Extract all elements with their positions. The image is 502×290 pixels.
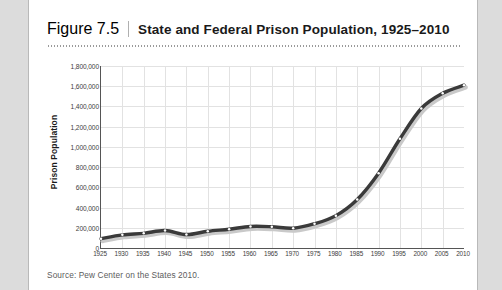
data-point-marker bbox=[335, 214, 338, 217]
x-axis-tick-label: 2005 bbox=[435, 250, 449, 257]
y-axis-tick-label: 1,600,000 bbox=[43, 83, 99, 90]
y-axis-tick-label: 0 bbox=[43, 245, 99, 252]
y-axis-tick-label: 1,400,000 bbox=[43, 103, 99, 110]
y-axis-tick-label: 600,000 bbox=[43, 184, 99, 191]
x-axis-tick-label: 1925 bbox=[93, 250, 107, 257]
series-line-path bbox=[101, 85, 464, 238]
x-axis-tick-label: 2010 bbox=[456, 250, 470, 257]
x-axis-tick-label: 1960 bbox=[243, 250, 257, 257]
y-axis-tick-label: 800,000 bbox=[43, 164, 99, 171]
y-axis-tick-label: 400,000 bbox=[43, 204, 99, 211]
title-separator bbox=[128, 21, 129, 37]
x-axis-tick-label: 1970 bbox=[285, 250, 299, 257]
data-point-marker bbox=[463, 84, 466, 87]
figure-number: Figure 7.5 bbox=[47, 20, 119, 38]
data-point-marker bbox=[185, 233, 188, 236]
data-point-marker bbox=[441, 92, 444, 95]
y-axis-tick-label: 1,800,000 bbox=[43, 63, 99, 70]
figure-header: Figure 7.5 State and Federal Prison Popu… bbox=[47, 14, 461, 44]
figure-title: State and Federal Prison Population, 192… bbox=[138, 22, 449, 37]
figure-card: Figure 7.5 State and Federal Prison Popu… bbox=[28, 0, 478, 290]
data-point-marker bbox=[121, 234, 124, 237]
x-axis-tick-label: 2000 bbox=[413, 250, 427, 257]
x-axis-tick-label: 1935 bbox=[136, 250, 150, 257]
series-line bbox=[101, 66, 464, 248]
x-axis-tick-label: 1975 bbox=[307, 250, 321, 257]
data-point-marker bbox=[164, 229, 167, 232]
data-point-marker bbox=[271, 226, 274, 229]
x-axis-tick-label: 1995 bbox=[392, 250, 406, 257]
source-note: Source: Pew Center on the States 2010. bbox=[47, 270, 199, 280]
x-axis-tick-label: 1930 bbox=[115, 250, 129, 257]
x-axis-tick-label: 1990 bbox=[371, 250, 385, 257]
y-axis-tick-label: 200,000 bbox=[43, 224, 99, 231]
x-axis-tick-label: 1950 bbox=[200, 250, 214, 257]
header-divider bbox=[47, 45, 461, 47]
plot-area bbox=[100, 66, 464, 249]
data-point-marker bbox=[292, 227, 295, 230]
data-point-marker bbox=[249, 225, 252, 228]
x-axis-tick-labels: 1925193019351940194519501955196019651970… bbox=[100, 250, 463, 264]
data-point-marker bbox=[142, 232, 145, 235]
x-axis-tick-label: 1945 bbox=[179, 250, 193, 257]
data-point-marker bbox=[377, 172, 380, 175]
y-axis-tick-label: 1,000,000 bbox=[43, 143, 99, 150]
x-axis-tick-label: 1940 bbox=[157, 250, 171, 257]
x-axis-tick-label: 1980 bbox=[328, 250, 342, 257]
series-line-shadow bbox=[103, 87, 466, 240]
data-point-marker bbox=[399, 138, 402, 141]
x-axis-tick-label: 1955 bbox=[221, 250, 235, 257]
data-point-marker bbox=[100, 237, 103, 240]
data-point-marker bbox=[228, 228, 231, 231]
y-axis-tick-labels: 1,800,0001,600,0001,400,0001,200,0001,00… bbox=[43, 52, 99, 264]
x-axis-tick-label: 1985 bbox=[349, 250, 363, 257]
x-axis-tick-label: 1965 bbox=[264, 250, 278, 257]
data-point-marker bbox=[356, 198, 359, 201]
data-point-marker bbox=[207, 230, 210, 233]
data-point-marker bbox=[313, 222, 316, 225]
data-point-marker bbox=[420, 107, 423, 110]
chart-region: Prison Population 1,800,0001,600,0001,40… bbox=[29, 52, 479, 264]
y-axis-tick-label: 1,200,000 bbox=[43, 123, 99, 130]
